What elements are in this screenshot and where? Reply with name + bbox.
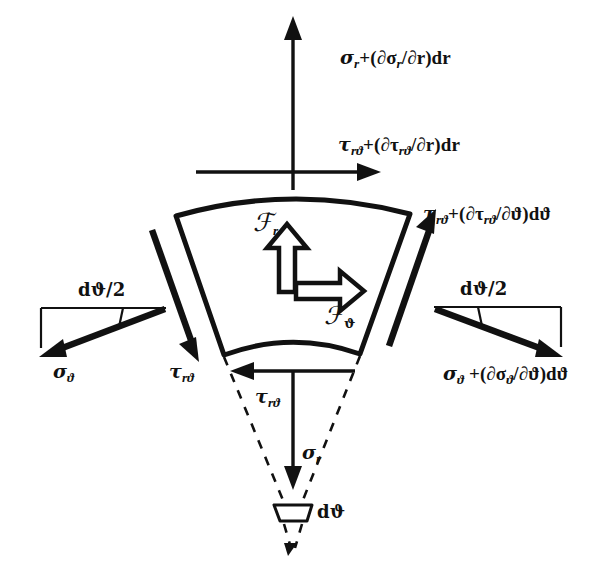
- sigma-theta-right-head: [535, 339, 563, 357]
- sigma-r-outer-head: [284, 16, 302, 40]
- figure-root: σr+(∂σr/∂r)dr τrϑ+(∂τrϑ/∂r)dr τrϑ+(∂τrϑ/…: [0, 0, 605, 586]
- sigma-r-outer-arrow: [284, 16, 302, 190]
- tau-rtheta-left-head: [179, 337, 199, 362]
- label-tau-rtheta-right: τrϑ+(∂τrϑ/∂ϑ)dϑ: [423, 204, 551, 226]
- tau-rtheta-outer-head: [357, 163, 381, 181]
- label-sigma-theta-right: σϑ +(∂σϑ/∂ϑ)dϑ: [443, 364, 568, 386]
- label-sigma-r-outer: σr+(∂σr/∂r)dr: [340, 48, 451, 70]
- sigma-r-inner-arrow: [284, 371, 302, 490]
- sigma-theta-left-shaft: [57, 309, 165, 350]
- label-apex-angle: dϑ: [317, 503, 345, 521]
- label-tau-rtheta-left: τrϑ: [169, 362, 194, 384]
- label-body-force-r: ℱr: [253, 210, 278, 237]
- label-tau-rtheta-outer: τrϑ+(∂τrϑ/∂r)dr: [338, 135, 460, 157]
- label-sigma-theta-left: σϑ: [53, 362, 74, 384]
- label-half-angle-right: dϑ/2: [460, 280, 507, 298]
- label-tau-rtheta-inner: τrϑ: [255, 387, 280, 409]
- dashed-radial-left: [224, 357, 285, 505]
- dashed-tail-right: [295, 524, 302, 548]
- label-body-force-theta: ℱϑ: [324, 303, 355, 330]
- dashed-radial-right: [301, 356, 360, 505]
- sigma-r-inner-head: [284, 466, 302, 490]
- dashed-tail-arrowhead: [284, 543, 297, 556]
- tau-rtheta-outer-arrow: [196, 163, 381, 181]
- sigma-theta-left-group: [39, 308, 166, 357]
- label-half-angle-left: dϑ/2: [78, 281, 125, 299]
- sigma-theta-right-shaft: [435, 309, 545, 350]
- sigma-theta-right-group: [434, 307, 563, 357]
- apex-angle-marker: [274, 505, 312, 521]
- sigma-theta-left-head: [39, 339, 67, 357]
- label-sigma-r-inner: σr: [302, 443, 321, 465]
